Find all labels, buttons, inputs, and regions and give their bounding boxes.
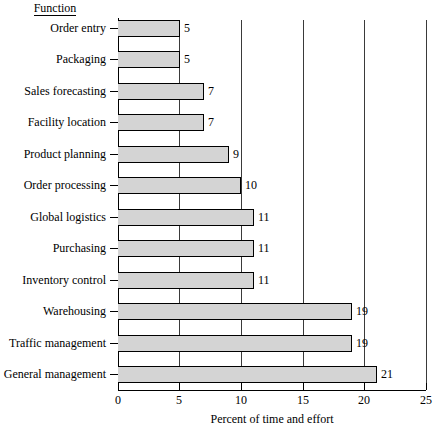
bar-order-processing <box>118 177 241 194</box>
bar-value-inventory-control: 11 <box>258 273 270 287</box>
bar-value-global-logistics: 11 <box>258 210 270 224</box>
y-tick-order-processing <box>110 185 118 186</box>
bar-product-planning <box>118 146 229 163</box>
category-label-order-processing: Order processing <box>0 178 106 192</box>
gridline-20 <box>364 20 365 390</box>
bar-value-order-processing: 10 <box>245 178 257 192</box>
y-tick-order-entry <box>110 28 118 29</box>
x-tick-25 <box>426 383 427 390</box>
x-tick-20 <box>364 383 365 390</box>
category-label-traffic-management: Traffic management <box>0 336 106 350</box>
category-label-purchasing: Purchasing <box>0 241 106 255</box>
bar-value-packaging: 5 <box>184 52 190 66</box>
bar-inventory-control <box>118 272 254 289</box>
bar-value-order-entry: 5 <box>184 21 190 35</box>
x-tick-label-10: 10 <box>221 393 261 407</box>
x-tick-5 <box>179 383 180 390</box>
bar-value-traffic-management: 19 <box>356 336 368 350</box>
y-tick-product-planning <box>110 154 118 155</box>
bar-value-purchasing: 11 <box>258 241 270 255</box>
y-tick-packaging <box>110 59 118 60</box>
category-label-facility-location: Facility location <box>0 115 106 129</box>
category-column-header-label: Function <box>34 1 77 16</box>
category-label-sales-forecasting: Sales forecasting <box>0 84 106 98</box>
y-tick-sales-forecasting <box>110 91 118 92</box>
x-axis-title: Percent of time and effort <box>118 412 426 426</box>
bar-facility-location <box>118 114 204 131</box>
gridline-25 <box>426 20 427 390</box>
bar-order-entry <box>118 20 180 37</box>
y-tick-traffic-management <box>110 343 118 344</box>
bar-value-facility-location: 7 <box>208 115 214 129</box>
bar-warehousing <box>118 303 352 320</box>
bar-global-logistics <box>118 209 254 226</box>
bar-traffic-management <box>118 335 352 352</box>
y-tick-general-management <box>110 374 118 375</box>
y-tick-purchasing <box>110 248 118 249</box>
x-tick-10 <box>241 383 242 390</box>
y-tick-inventory-control <box>110 280 118 281</box>
bar-sales-forecasting <box>118 83 204 100</box>
category-label-inventory-control: Inventory control <box>0 273 106 287</box>
x-tick-label-15: 15 <box>283 393 323 407</box>
category-column-header: Function <box>0 1 110 15</box>
x-axis-line <box>118 390 426 391</box>
x-tick-label-0: 0 <box>98 393 138 407</box>
category-label-product-planning: Product planning <box>0 147 106 161</box>
bar-value-warehousing: 19 <box>356 304 368 318</box>
bar-value-general-management: 21 <box>381 367 393 381</box>
bar-general-management <box>118 366 377 383</box>
category-label-global-logistics: Global logistics <box>0 210 106 224</box>
bar-value-sales-forecasting: 7 <box>208 84 214 98</box>
y-tick-warehousing <box>110 311 118 312</box>
category-label-packaging: Packaging <box>0 52 106 66</box>
plot-area: Function 0 5 10 15 20 25 Order entry 5 P… <box>0 0 434 431</box>
y-tick-facility-location <box>110 122 118 123</box>
category-label-general-management: General management <box>0 367 106 381</box>
bar-chart: Function 0 5 10 15 20 25 Order entry 5 P… <box>0 0 434 431</box>
bar-value-product-planning: 9 <box>233 147 239 161</box>
bar-purchasing <box>118 240 254 257</box>
y-tick-global-logistics <box>110 217 118 218</box>
x-tick-label-25: 25 <box>406 393 434 407</box>
bar-packaging <box>118 51 180 68</box>
x-tick-15 <box>303 383 304 390</box>
category-label-warehousing: Warehousing <box>0 304 106 318</box>
category-label-order-entry: Order entry <box>0 21 106 35</box>
x-tick-label-5: 5 <box>159 393 199 407</box>
x-tick-label-20: 20 <box>344 393 384 407</box>
x-tick-0 <box>118 383 119 390</box>
